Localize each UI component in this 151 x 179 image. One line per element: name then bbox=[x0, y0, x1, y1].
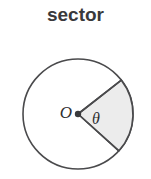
circle-sector-diagram: O θ bbox=[0, 0, 151, 179]
angle-label-theta: θ bbox=[92, 110, 100, 127]
center-point-dot bbox=[75, 111, 81, 117]
center-label-O: O bbox=[60, 103, 72, 122]
sector-figure: sector O θ bbox=[0, 0, 151, 179]
